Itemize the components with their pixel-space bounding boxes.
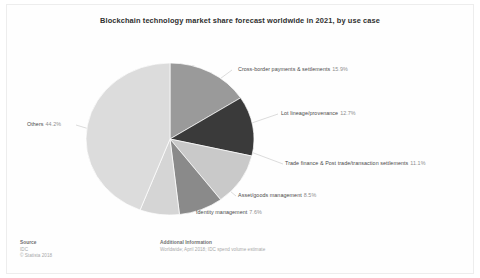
slice-label-percent: 8.5% [304,192,317,198]
slice-label-text: Others [27,121,43,127]
slice-label-asset-goods-management: Asset/goods management8.5% [238,192,316,199]
source-line-2: © Statista 2018 [20,253,52,259]
pie-svg [84,62,256,220]
slice-label-cross-border-payments: Cross-border payments & settlements15.9% [238,66,348,73]
slice-label-text: Asset/goods management [238,192,302,198]
footer-source-block: Source IDC © Statista 2018 [20,240,52,260]
pie-chart [84,62,256,220]
footer-additional-info-block: Additional Information Worldwide; April … [160,240,265,253]
slice-label-text: Trade finance & Post trade/transaction s… [285,160,408,166]
slice-label-identity-management: Identity management7.6% [196,209,262,216]
pie-slice-group [86,63,254,215]
additional-info-line-1: Worldwide; April 2018; IDC spend volume … [160,247,265,253]
slice-label-lot-lineage: Lot lineage/provenance12.7% [281,110,356,117]
slice-label-others: Others44.2% [27,121,61,128]
source-heading: Source [20,240,52,246]
slice-label-percent: 15.9% [332,66,348,72]
slice-label-text: Cross-border payments & settlements [238,66,330,72]
slice-label-text: Lot lineage/provenance [281,110,338,116]
slice-label-text: Identity management [196,209,247,215]
page-title: Blockchain technology market share forec… [0,16,480,26]
slice-label-trade-finance: Trade finance & Post trade/transaction s… [285,160,426,167]
slice-label-percent: 44.2% [45,121,61,127]
slice-label-percent: 7.6% [249,209,262,215]
slice-label-percent: 11.1% [410,160,425,166]
additional-info-heading: Additional Information [160,240,265,246]
slice-label-percent: 12.7% [340,110,356,116]
